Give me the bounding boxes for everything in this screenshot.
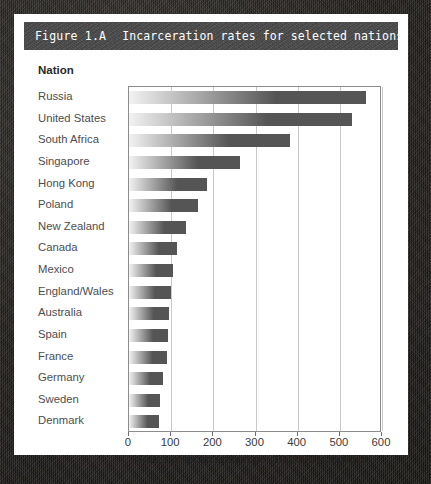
category-label: Australia: [38, 306, 124, 318]
category-label: United States: [38, 112, 124, 124]
category-label: Denmark: [38, 414, 124, 426]
bar-rows: [129, 87, 380, 431]
x-axis-title: Rates of incarceration per 100,000 popul…: [128, 453, 381, 465]
bar-canada: [129, 242, 177, 255]
bar-row: [129, 217, 380, 239]
category-label: South Africa: [38, 133, 124, 145]
bar-united-states: [129, 113, 352, 126]
tick-label-400: 400: [277, 436, 317, 448]
bar-row: [129, 260, 380, 282]
tick-label-500: 500: [319, 436, 359, 448]
category-label: Russia: [38, 90, 124, 102]
bar-row: [129, 152, 380, 174]
chart-area: Nation RussiaUnited StatesSouth AfricaSi…: [14, 50, 408, 455]
category-label: Canada: [38, 241, 124, 253]
bar-denmark: [129, 415, 159, 428]
category-label: Mexico: [38, 263, 124, 275]
bar-row: [129, 130, 380, 152]
bar-mexico: [129, 264, 173, 277]
bar-sweden: [129, 394, 160, 407]
figure-title-banner: Figure 1.A Incarceration rates for selec…: [24, 22, 398, 50]
bar-row: [129, 87, 380, 109]
bar-spain: [129, 329, 168, 342]
tick-label-0: 0: [108, 436, 148, 448]
bar-row: [129, 303, 380, 325]
bar-russia: [129, 91, 366, 104]
category-label: Sweden: [38, 393, 124, 405]
category-label: Singapore: [38, 155, 124, 167]
figure-number-label: Figure 1.A: [35, 29, 106, 43]
category-label: Poland: [38, 198, 124, 210]
bar-singapore: [129, 156, 240, 169]
category-label: France: [38, 350, 124, 362]
plot-wrapper: RussiaUnited StatesSouth AfricaSingapore…: [14, 50, 408, 455]
category-label: Germany: [38, 371, 124, 383]
tick-label-200: 200: [192, 436, 232, 448]
plot-frame: [128, 86, 381, 432]
bar-row: [129, 325, 380, 347]
bar-row: [129, 195, 380, 217]
figure-caption: Incarceration rates for selected nations…: [122, 29, 398, 43]
bar-poland: [129, 199, 198, 212]
bar-row: [129, 282, 380, 304]
category-label: Spain: [38, 328, 124, 340]
bar-row: [129, 411, 380, 433]
bar-row: [129, 368, 380, 390]
bar-south-africa: [129, 134, 290, 147]
bar-england-wales: [129, 286, 171, 299]
bar-row: [129, 174, 380, 196]
bar-row: [129, 109, 380, 131]
bar-germany: [129, 372, 163, 385]
tick-label-600: 600: [361, 436, 401, 448]
tick-label-100: 100: [150, 436, 190, 448]
bar-row: [129, 238, 380, 260]
bar-new-zealand: [129, 221, 186, 234]
gridline-600: [382, 87, 383, 431]
category-label: England/Wales: [38, 285, 124, 297]
bar-hong-kong: [129, 178, 207, 191]
bar-france: [129, 351, 167, 364]
tick-label-300: 300: [235, 436, 275, 448]
category-label: Hong Kong: [38, 177, 124, 189]
figure-page: Figure 1.A Incarceration rates for selec…: [14, 14, 408, 455]
category-label: New Zealand: [38, 220, 124, 232]
bar-australia: [129, 307, 169, 320]
bar-row: [129, 347, 380, 369]
bar-row: [129, 390, 380, 412]
